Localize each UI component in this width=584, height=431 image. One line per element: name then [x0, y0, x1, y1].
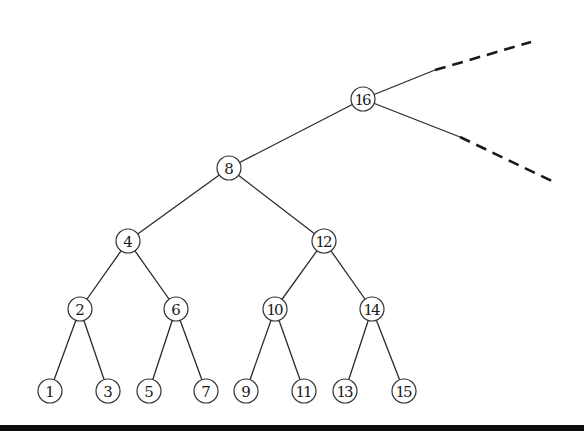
node-label: 8 — [224, 160, 234, 178]
tree-node-13: 13 — [333, 379, 357, 403]
node-label: 2 — [75, 301, 85, 319]
node-label: 12 — [316, 233, 333, 251]
tree-node-8: 8 — [217, 156, 241, 180]
node-label: 3 — [103, 383, 113, 401]
edge-14-13 — [345, 309, 372, 391]
edge-8-12 — [229, 168, 324, 241]
tree-node-6: 6 — [164, 297, 188, 321]
tree-node-2: 2 — [68, 297, 92, 321]
node-label: 9 — [241, 383, 251, 401]
tree-node-4: 4 — [116, 229, 140, 253]
lower-continuation-solid — [363, 99, 460, 137]
lower-continuation-dashed — [460, 137, 556, 183]
node-label: 4 — [123, 233, 133, 251]
tree-node-16: 16 — [351, 87, 375, 111]
tree-edges — [50, 99, 404, 391]
edge-6-7 — [176, 309, 206, 391]
tree-node-7: 7 — [194, 379, 218, 403]
tree-node-3: 3 — [96, 379, 120, 403]
node-label: 11 — [296, 383, 313, 401]
node-label: 15 — [396, 383, 413, 401]
edge-16-8 — [229, 99, 363, 168]
edge-2-3 — [80, 309, 108, 391]
binary-tree-diagram: 16841226101413579111315 — [0, 0, 584, 431]
edge-8-4 — [128, 168, 229, 241]
node-label: 6 — [171, 301, 181, 319]
tree-node-14: 14 — [360, 297, 384, 321]
tree-nodes: 16841226101413579111315 — [38, 87, 416, 403]
tree-node-11: 11 — [292, 379, 316, 403]
node-label: 14 — [364, 301, 381, 319]
edge-2-1 — [50, 309, 80, 391]
root-continuation-edges — [363, 42, 556, 183]
tree-node-9: 9 — [234, 379, 258, 403]
node-label: 13 — [337, 383, 354, 401]
node-label: 10 — [267, 301, 284, 319]
tree-node-1: 1 — [38, 379, 62, 403]
tree-node-5: 5 — [137, 379, 161, 403]
bottom-rule — [0, 425, 584, 431]
upper-continuation-dashed — [435, 42, 531, 70]
edge-6-5 — [149, 309, 176, 391]
node-label: 1 — [45, 383, 55, 401]
tree-node-10: 10 — [263, 297, 287, 321]
edge-10-11 — [275, 309, 304, 391]
node-label: 16 — [355, 91, 372, 109]
edge-14-15 — [372, 309, 404, 391]
node-label: 5 — [144, 383, 154, 401]
node-label: 7 — [201, 383, 211, 401]
tree-node-15: 15 — [392, 379, 416, 403]
tree-node-12: 12 — [312, 229, 336, 253]
edge-10-9 — [246, 309, 275, 391]
